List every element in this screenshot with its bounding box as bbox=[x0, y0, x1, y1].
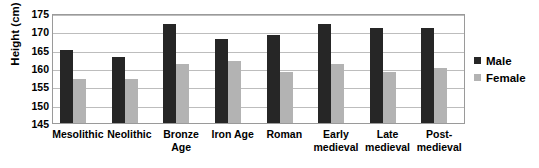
legend-item[interactable]: Female bbox=[474, 69, 536, 86]
legend-swatch-icon bbox=[474, 74, 481, 81]
bar-female[interactable] bbox=[125, 79, 138, 123]
bar-group bbox=[260, 15, 312, 123]
bar-male[interactable] bbox=[60, 50, 73, 123]
bar-male[interactable] bbox=[370, 28, 383, 123]
x-axis-category-labels: MesolithicNeolithicBronzeAgeIron AgeRoma… bbox=[52, 128, 465, 166]
legend-item[interactable]: Male bbox=[474, 52, 536, 69]
plot-area bbox=[52, 14, 465, 124]
bar-group bbox=[363, 15, 415, 123]
chart-legend: MaleFemale bbox=[474, 52, 536, 86]
y-axis-tick-label: 170 bbox=[18, 27, 49, 37]
bar-female[interactable] bbox=[434, 68, 447, 123]
legend-label: Female bbox=[486, 72, 526, 84]
bar-group bbox=[414, 15, 466, 123]
y-axis-tick-label: 160 bbox=[18, 64, 49, 74]
bar-male[interactable] bbox=[421, 28, 434, 123]
y-axis-tick-label: 145 bbox=[18, 119, 49, 129]
bar-female[interactable] bbox=[228, 61, 241, 123]
y-axis-tick-label: 155 bbox=[18, 82, 49, 92]
bar-female[interactable] bbox=[383, 72, 396, 123]
legend-label: Male bbox=[486, 55, 512, 67]
bar-male[interactable] bbox=[112, 57, 125, 123]
bar-group bbox=[53, 15, 105, 123]
bar-female[interactable] bbox=[73, 79, 86, 123]
bar-male[interactable] bbox=[163, 24, 176, 123]
bar-chart: Height (cm) 175170165160155150145 Mesoli… bbox=[0, 0, 539, 168]
bar-male[interactable] bbox=[318, 24, 331, 123]
bar-group bbox=[156, 15, 208, 123]
bar-female[interactable] bbox=[331, 64, 344, 123]
bar-female[interactable] bbox=[280, 72, 293, 123]
bar-female[interactable] bbox=[176, 64, 189, 123]
bar-group bbox=[208, 15, 260, 123]
y-axis-tick-labels: 175170165160155150145 bbox=[18, 14, 49, 124]
bar-group bbox=[105, 15, 157, 123]
bars-layer bbox=[53, 15, 464, 123]
y-axis-tick-label: 165 bbox=[18, 46, 49, 56]
y-axis-tick-label: 175 bbox=[18, 9, 49, 19]
bar-group bbox=[311, 15, 363, 123]
bar-male[interactable] bbox=[267, 35, 280, 123]
x-axis-label: Post-medieval bbox=[407, 128, 471, 153]
bar-male[interactable] bbox=[215, 39, 228, 123]
legend-swatch-icon bbox=[474, 57, 481, 64]
y-axis-tick-label: 150 bbox=[18, 101, 49, 111]
